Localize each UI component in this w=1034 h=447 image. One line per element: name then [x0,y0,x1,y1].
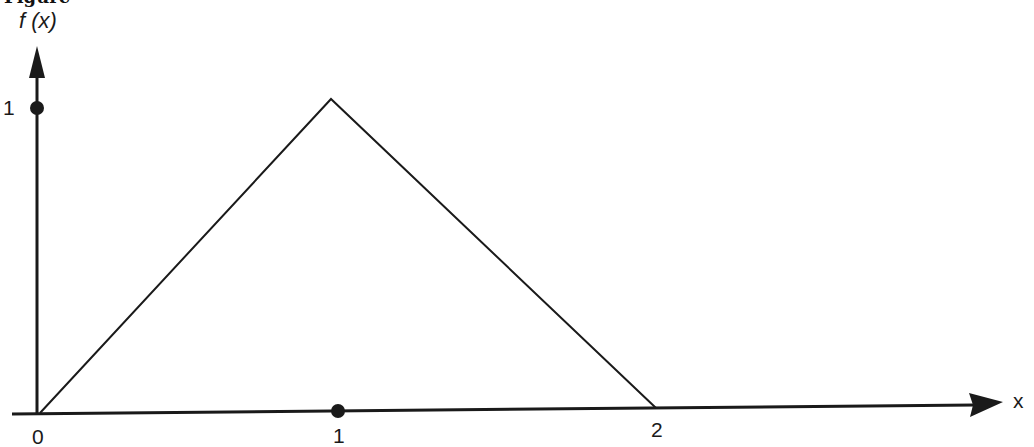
point-dot-y1 [30,101,44,115]
x-axis-line [12,405,975,414]
x-tick-label-2: 2 [651,419,663,440]
y-tick-label-1: 1 [3,97,15,118]
x-axis-label: x [1013,390,1024,411]
x-axis-arrow-icon [969,393,1003,417]
x-tick-label-1: 1 [333,425,345,446]
y-axis-arrow-icon [29,46,45,78]
y-axis-label: f (x) [19,10,57,32]
chart-canvas [0,0,1034,447]
triangle-function-line [40,99,656,413]
x-tick-label-0: 0 [32,426,44,447]
point-dot-x1 [331,404,345,418]
